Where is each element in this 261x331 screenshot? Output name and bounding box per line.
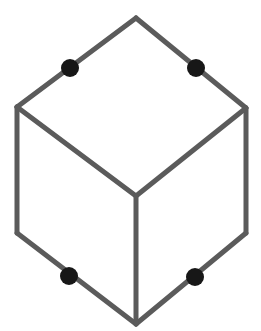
dot-bottom-right xyxy=(186,268,204,286)
dot-top-left xyxy=(61,59,79,77)
dot-bottom-left xyxy=(60,267,78,285)
isometric-cube-figure xyxy=(0,0,261,331)
figure-background xyxy=(0,0,261,331)
dot-top-right xyxy=(187,59,205,77)
